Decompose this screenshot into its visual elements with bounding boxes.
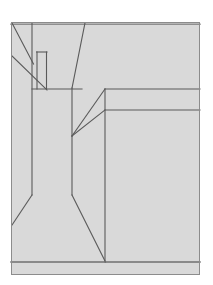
line-drawing-canvas [0,0,213,285]
figure-root [0,0,213,285]
